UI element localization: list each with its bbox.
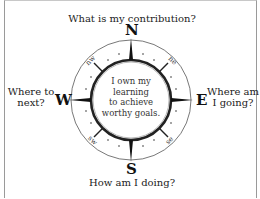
- label-ne: ne: [167, 55, 179, 67]
- west-needle: [69, 98, 91, 102]
- label-north: N: [125, 23, 139, 38]
- label-west: W: [55, 93, 72, 108]
- label-nw: nw: [84, 54, 97, 67]
- label-south: S: [126, 162, 137, 177]
- south-needle: [129, 140, 133, 162]
- north-needle: [129, 38, 133, 60]
- center-statement: I own my learning to achieve worthy goal…: [101, 76, 161, 118]
- center-line-2: learning: [101, 87, 161, 98]
- center-line-1: I own my: [101, 76, 161, 87]
- label-sw: sw: [86, 134, 98, 146]
- center-line-3: to achieve: [101, 97, 161, 108]
- label-east: E: [196, 93, 207, 108]
- east-needle: [171, 98, 193, 102]
- label-se: se: [164, 135, 175, 146]
- center-line-4: worthy goals.: [101, 108, 161, 119]
